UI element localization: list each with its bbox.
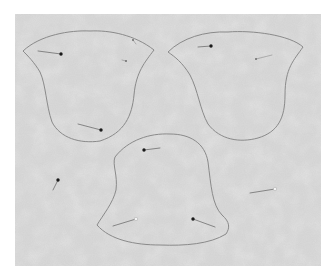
pin-head-icon: [56, 178, 59, 181]
felt-pattern-photo: [0, 0, 335, 273]
pin-head-icon: [132, 39, 134, 41]
pin-head-icon: [255, 58, 257, 60]
pin-head-icon: [273, 187, 276, 190]
pin-head-icon: [125, 60, 127, 62]
pin-head-icon: [142, 148, 145, 151]
pin-head-icon: [99, 128, 102, 131]
pin-head-icon: [209, 44, 212, 47]
pin-head-icon: [191, 217, 194, 220]
pin-head-icon: [134, 217, 137, 220]
pin-head-icon: [59, 52, 62, 55]
